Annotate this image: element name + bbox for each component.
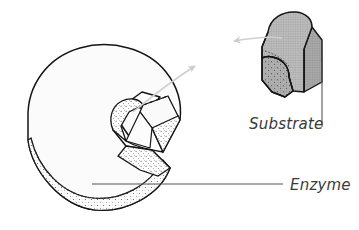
figure-canvas: Substrate Enzyme: [0, 0, 359, 230]
enzyme-label: Enzyme: [290, 176, 351, 194]
enzyme-body: [28, 45, 181, 211]
diagram-svg: Substrate Enzyme: [0, 0, 359, 230]
substrate-label: Substrate: [249, 115, 324, 133]
